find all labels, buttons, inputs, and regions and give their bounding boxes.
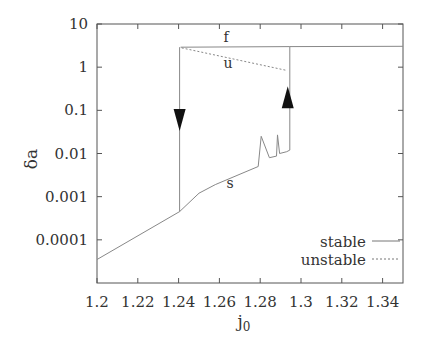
- series-s: [97, 135, 290, 260]
- x-tick-label: 1.34: [366, 293, 399, 311]
- x-tick-label: 1.32: [325, 293, 358, 311]
- y-tick-label: 0.001: [45, 188, 88, 206]
- bifurcation-chart: 1.21.221.241.261.281.31.321.34 1010.10.0…: [0, 0, 423, 348]
- y-tick-label: 0.01: [55, 145, 88, 163]
- series-u: [182, 48, 286, 70]
- legend-label-unstable: unstable: [301, 251, 366, 269]
- x-tick-label: 1.22: [121, 293, 154, 311]
- branch-label-u: u: [223, 55, 232, 71]
- x-axis-label-sub: 0: [243, 320, 251, 334]
- y-tick-label: 0.1: [64, 101, 88, 119]
- arrow-down-icon: [174, 109, 186, 131]
- branch-label-s: s: [226, 175, 233, 191]
- series-layer: [97, 46, 403, 259]
- arrow-up-icon: [282, 86, 294, 108]
- y-tick-label: 1: [78, 58, 88, 76]
- x-tick-label: 1.28: [243, 293, 276, 311]
- x-tick-label: 1.3: [289, 293, 313, 311]
- y-tick-label: 0.0001: [36, 231, 89, 249]
- y-axis-label: δa: [21, 149, 41, 169]
- x-tick-label: 1.2: [85, 293, 109, 311]
- y-tick-label: 10: [69, 15, 88, 33]
- legend: stable unstable: [301, 233, 400, 269]
- branch-label-f: f: [223, 29, 230, 45]
- x-axis-label-main: j: [236, 311, 243, 331]
- x-tick-label: 1.24: [162, 293, 195, 311]
- y-axis-ticks: 1010.10.010.0010.0001: [36, 15, 404, 249]
- series-f: [181, 46, 403, 47]
- legend-label-stable: stable: [320, 233, 366, 251]
- x-axis-label: j0: [236, 311, 251, 334]
- x-tick-label: 1.26: [203, 293, 236, 311]
- arrow-layer: [174, 86, 294, 131]
